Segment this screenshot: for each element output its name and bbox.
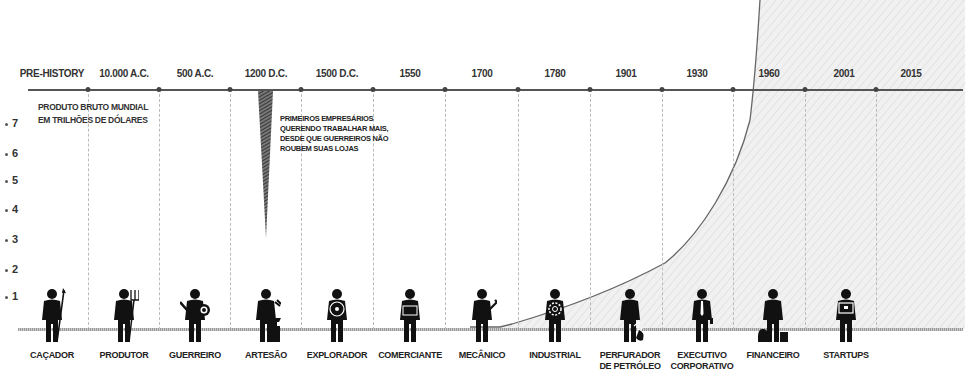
era-divider bbox=[445, 94, 446, 330]
timeline-axis bbox=[28, 89, 963, 91]
mechanic-wrench-icon bbox=[467, 288, 497, 342]
artisan-anvil-icon bbox=[251, 288, 281, 342]
era-divider bbox=[733, 94, 734, 330]
era-label: 1550 bbox=[370, 68, 450, 79]
era-divider bbox=[518, 94, 519, 330]
occupation-label: STARTUPS bbox=[801, 350, 891, 361]
y-tick: 4 bbox=[5, 203, 18, 215]
tick-dot-icon bbox=[5, 269, 8, 272]
era-label: 2015 bbox=[871, 68, 951, 79]
warrior-shield-icon bbox=[180, 288, 210, 342]
era-label: 500 A.C. bbox=[155, 68, 235, 79]
era-label: 1901 bbox=[586, 68, 666, 79]
startup-laptop-icon bbox=[831, 288, 861, 342]
era-label: 1960 bbox=[729, 68, 809, 79]
era-divider bbox=[230, 94, 231, 330]
artisan-spike bbox=[258, 91, 273, 238]
financier-moneybag-icon bbox=[758, 288, 788, 342]
oil-driller-icon bbox=[615, 288, 645, 342]
era-divider bbox=[662, 94, 663, 330]
y-tick: 2 bbox=[5, 263, 18, 275]
era-divider bbox=[88, 94, 89, 330]
merchant-apron-icon bbox=[395, 288, 425, 342]
tick-dot-icon bbox=[5, 153, 8, 156]
era-label: PRE-HISTORY bbox=[12, 68, 92, 79]
y-tick: 6 bbox=[5, 147, 18, 159]
axis-dot bbox=[588, 87, 593, 92]
axis-dot bbox=[443, 87, 448, 92]
axis-dot bbox=[371, 87, 376, 92]
axis-dot bbox=[660, 87, 665, 92]
hunter-spear-icon bbox=[37, 288, 67, 342]
era-divider bbox=[590, 94, 591, 330]
tick-dot-icon bbox=[5, 209, 8, 212]
artisan-annotation: PRIMEIROS EMPRESÁRIOS QUERENDO TRABALHAR… bbox=[280, 114, 388, 154]
y-tick: 7 bbox=[5, 117, 18, 129]
y-axis-title: PRODUTO BRUTO MUNDIAL EM TRILHÕES DE DÓL… bbox=[38, 101, 148, 127]
explorer-compass-icon bbox=[322, 288, 352, 342]
industrial-gear-icon bbox=[540, 288, 570, 342]
era-divider bbox=[876, 94, 877, 330]
era-label: 10.000 A.C. bbox=[84, 68, 164, 79]
y-tick: 5 bbox=[5, 174, 18, 186]
axis-dot bbox=[299, 87, 304, 92]
tick-dot-icon bbox=[5, 180, 8, 183]
executive-tie-icon bbox=[687, 288, 717, 342]
farmer-pitchfork-icon bbox=[109, 288, 139, 342]
era-label: 1200 D.C. bbox=[226, 68, 306, 79]
axis-dot bbox=[874, 87, 879, 92]
axis-dot bbox=[516, 87, 521, 92]
era-divider bbox=[159, 94, 160, 330]
era-divider bbox=[805, 94, 806, 330]
y-tick: 1 bbox=[5, 290, 18, 302]
era-label: 1700 bbox=[442, 68, 522, 79]
era-label: 1930 bbox=[657, 68, 737, 79]
era-label: 1500 D.C. bbox=[297, 68, 377, 79]
axis-dot bbox=[803, 87, 808, 92]
axis-dot bbox=[228, 87, 233, 92]
tick-dot-icon bbox=[5, 239, 8, 242]
axis-dot bbox=[157, 87, 162, 92]
era-label: 1780 bbox=[515, 68, 595, 79]
axis-dot bbox=[86, 87, 91, 92]
tick-dot-icon bbox=[5, 123, 8, 126]
y-tick: 3 bbox=[5, 233, 18, 245]
axis-dot bbox=[731, 87, 736, 92]
tick-dot-icon bbox=[5, 296, 8, 299]
